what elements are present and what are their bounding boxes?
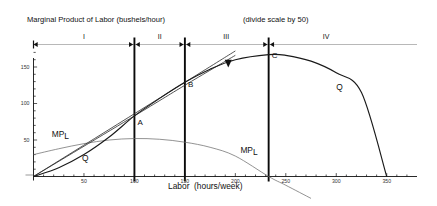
x-tick-label-50: 50: [74, 178, 94, 184]
region-arrow-2-left: [179, 42, 183, 47]
y-tick-label-100: 100: [16, 100, 30, 106]
header-mpl-label: Marginal Product of Labor (bushels/hour): [27, 15, 165, 25]
curve-label-mp-text: MP: [240, 145, 253, 155]
x-tick-label-250: 250: [276, 178, 296, 184]
x-axis-title: Labor (hours/week): [168, 181, 242, 191]
marker-triangle-down-0: [225, 60, 232, 68]
point-label-C: C: [272, 51, 278, 60]
region-label-I: I: [72, 33, 96, 40]
curve-label-l-subscript: L: [64, 131, 69, 141]
curve-label-mpl-2: MPL: [240, 145, 257, 155]
region-label-III: III: [214, 33, 238, 40]
header-scale-note: (divide scale by 50): [243, 15, 308, 25]
region-arrow-start: [34, 42, 38, 47]
x-tick-label-300: 300: [326, 178, 346, 184]
point-label-A: A: [137, 118, 142, 127]
curve-label-mpl-0: MPL: [52, 129, 69, 139]
curve-label-q-1: Q: [82, 153, 89, 163]
figure-container: Marginal Product of Labor (bushels/hour)…: [0, 0, 437, 206]
region-arrow-2-right: [186, 42, 190, 47]
x-tick-label-350: 350: [377, 178, 397, 184]
curve-label-mp-text: MP: [52, 129, 65, 139]
region-label-II: II: [148, 33, 172, 40]
region-arrow-1-left: [129, 42, 133, 47]
y-tick-label-50: 50: [16, 137, 30, 143]
x-tick-label-100: 100: [124, 178, 144, 184]
region-label-IV: IV: [314, 33, 338, 40]
region-arrow-3-left: [263, 42, 267, 47]
point-label-B: B: [188, 80, 193, 89]
y-tick-label-150: 150: [16, 64, 30, 70]
region-arrow-1-right: [136, 42, 140, 47]
curve-label-q-3: Q: [336, 82, 343, 92]
chart-canvas: [0, 0, 437, 206]
curve-label-l-subscript: L: [253, 147, 258, 157]
region-arrow-3-right: [270, 42, 274, 47]
